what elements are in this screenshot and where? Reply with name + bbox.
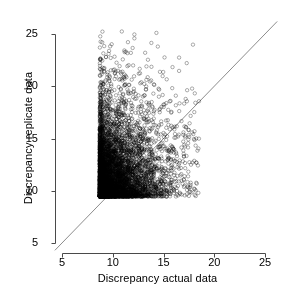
y-tick-label: 10 [12,184,38,196]
y-tick-label: 20 [12,79,38,91]
x-tick-label: 5 [49,256,75,268]
scatter-plot-canvas [0,0,291,296]
x-tick-label: 25 [252,256,278,268]
x-axis-title: Discrepancy actual data [0,272,291,284]
x-tick-label: 10 [100,256,126,268]
y-tick-label: 5 [12,236,38,248]
y-tick-label: 15 [12,132,38,144]
scatter-plot-figure: Discrepancy actual data Discrepancy repl… [0,0,291,296]
y-tick-label: 25 [12,27,38,39]
x-tick-label: 20 [201,256,227,268]
x-tick-label: 15 [151,256,177,268]
